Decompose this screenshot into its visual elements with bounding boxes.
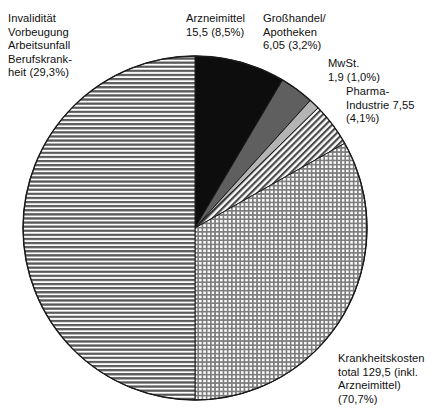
slice-label-krankheitskosten: Krankheitskosten total 129,5 (inkl. Arzn…	[338, 352, 434, 406]
slice-label-grosshandel-apotheken: Großhandel/ Apotheken 6,05 (3,2%)	[263, 12, 349, 53]
slice-label-mwst: MwSt. 1,9 (1,0%)	[328, 57, 408, 84]
slice-label-pharma-industrie: Pharma- Industrie 7,55 (4,1%)	[346, 85, 434, 126]
slice-label-arzneimittel: Arzneimittel 15,5 (8,5%)	[186, 12, 266, 39]
pie-chart-figure: Invalidität Vorbeugung Arbeitsunfall Ber…	[0, 0, 434, 416]
pie-slices	[23, 56, 367, 400]
pie-slice-invaliditaet	[23, 56, 195, 400]
slice-label-invaliditaet: Invalidität Vorbeugung Arbeitsunfall Ber…	[8, 12, 100, 80]
